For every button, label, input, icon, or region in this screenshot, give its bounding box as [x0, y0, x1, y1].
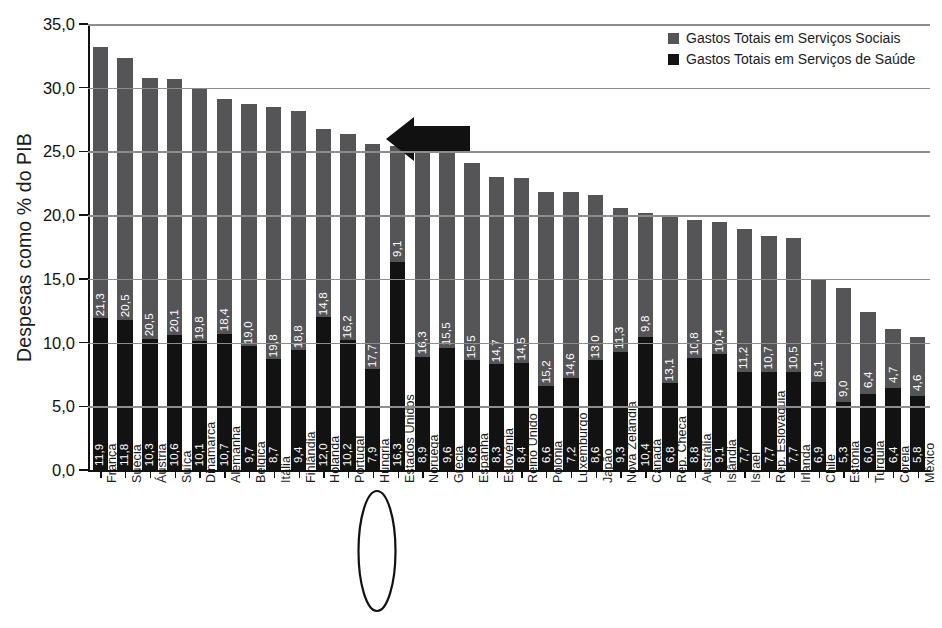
bar-column[interactable]: 18,89,4 — [291, 111, 306, 470]
bar-segment-social[interactable]: 9,8 — [638, 213, 653, 338]
bar-segment-social[interactable]: 11,2 — [737, 229, 752, 372]
bar-segment-social[interactable]: 13,1 — [662, 216, 677, 383]
x-tick-mark — [521, 471, 522, 478]
bar-segment-social[interactable]: 20,1 — [167, 79, 182, 335]
y-tick-mark — [79, 342, 88, 344]
bar-segment-social[interactable]: 16,2 — [340, 134, 355, 340]
bar-column[interactable]: 9,810,4 — [638, 213, 653, 470]
bar-column[interactable]: 20,110,6 — [167, 79, 182, 470]
bar-column[interactable]: 14,78,3 — [489, 177, 504, 470]
x-axis-label-turquia: Turquia — [873, 440, 887, 483]
bar-segment-social[interactable]: 6,4 — [860, 312, 875, 394]
bar-segment-social[interactable]: 15,2 — [538, 192, 553, 386]
bar-segment-social[interactable]: 10,8 — [687, 220, 702, 358]
x-tick-mark — [472, 471, 473, 478]
bar-segment-social[interactable]: 15,5 — [464, 163, 479, 361]
y-tick-label: 5,0 — [21, 397, 75, 416]
bar-value-label-social: 6,4 — [862, 372, 874, 389]
bar-segment-social[interactable]: 15,5 — [439, 150, 454, 348]
bar-column[interactable]: 11,27,7 — [737, 229, 752, 470]
x-axis-label-su-cia: Suécia — [130, 444, 144, 483]
x-axis-label-dinamarca: Dinamarca — [204, 422, 218, 483]
x-tick-mark — [150, 471, 151, 478]
y-tick-mark — [79, 23, 88, 25]
x-tick-mark — [744, 471, 745, 478]
bar-segment-social[interactable]: 14,6 — [563, 192, 578, 378]
x-tick-mark — [769, 471, 770, 478]
bar-value-label-social: 10,4 — [714, 329, 726, 352]
legend-item[interactable]: Gastos Totais em Serviços de Saúde — [668, 51, 915, 67]
x-tick-mark — [249, 471, 250, 478]
legend-item[interactable]: Gastos Totais em Serviços Sociais — [668, 30, 915, 46]
bar-segment-social[interactable]: 9,0 — [836, 288, 851, 403]
bar-segment-social[interactable]: 19,0 — [241, 104, 256, 346]
bar-column[interactable]: 15,59,6 — [439, 150, 454, 470]
y-tick-label: 25,0 — [21, 142, 75, 161]
x-axis-label-austr-lia: Austrália — [700, 433, 714, 483]
x-axis-label-jap-o: Japão — [601, 448, 615, 483]
x-axis-label-m-xico: México — [923, 443, 937, 483]
y-tick-mark — [79, 406, 88, 408]
x-axis-label-isl-ndia: Islândia — [725, 439, 739, 483]
bar-value-label-social: 17,7 — [367, 344, 379, 367]
y-tick-mark — [79, 87, 88, 89]
bar-column[interactable]: 15,26,6 — [538, 192, 553, 470]
bar-column[interactable]: 18,410,7 — [217, 99, 232, 470]
bar-column[interactable]: 15,58,6 — [464, 163, 479, 470]
bar-value-label-social: 10,8 — [689, 333, 701, 356]
bar-segment-social[interactable]: 17,7 — [365, 144, 380, 370]
bar-segment-social[interactable]: 9,1 — [390, 146, 405, 262]
y-gridline — [88, 406, 930, 408]
y-tick-label: 10,0 — [21, 333, 75, 352]
legend-label: Gastos Totais em Serviços de Saúde — [686, 51, 915, 67]
bar-segment-social[interactable]: 4,6 — [910, 337, 925, 396]
bar-column[interactable]: 17,77,9 — [365, 144, 380, 470]
bar-segment-health[interactable]: 8,7 — [266, 359, 281, 470]
x-tick-mark — [571, 471, 572, 478]
bar-column[interactable]: 13,08,6 — [588, 195, 603, 470]
x-axis-label-hungria: Hungria — [378, 439, 392, 483]
x-axis-label-holanda: Holanda — [328, 436, 342, 483]
bar-value-label-social: 13,1 — [664, 358, 676, 381]
bar-segment-social[interactable]: 8,1 — [811, 279, 826, 382]
bar-segment-social[interactable]: 18,8 — [291, 111, 306, 351]
y-tick-mark — [79, 469, 88, 471]
bar-column[interactable]: 10,49,1 — [712, 222, 727, 470]
bar-segment-social[interactable]: 14,5 — [514, 178, 529, 363]
bar-column[interactable]: 16,210,2 — [340, 134, 355, 470]
bar-value-label-social: 11,3 — [615, 327, 627, 349]
bar-segment-social[interactable]: 10,5 — [786, 238, 801, 372]
bar-segment-social[interactable]: 16,3 — [415, 149, 430, 357]
bar-column[interactable]: 10,57,7 — [786, 238, 801, 470]
bar-value-label-social: 20,5 — [119, 294, 131, 317]
legend-label: Gastos Totais em Serviços Sociais — [686, 30, 901, 46]
bar-column[interactable]: 19,88,7 — [266, 107, 281, 470]
bar-column[interactable]: 19,09,7 — [241, 104, 256, 470]
bar-value-label-health: 7,9 — [367, 446, 379, 463]
bar-value-label-social: 21,3 — [95, 293, 107, 316]
bar-column[interactable]: 14,812,0 — [316, 129, 331, 471]
x-tick-mark — [794, 471, 795, 478]
bar-column[interactable]: 20,511,8 — [117, 58, 132, 470]
x-tick-mark — [175, 471, 176, 478]
bar-segment-social[interactable]: 4,7 — [885, 329, 900, 389]
x-tick-mark — [596, 471, 597, 478]
bar-value-label-social: 18,4 — [218, 308, 230, 331]
bar-segment-social[interactable]: 13,0 — [588, 195, 603, 361]
x-axis-label-israel: Israel — [749, 452, 763, 483]
bar-segment-social[interactable]: 14,8 — [316, 129, 331, 318]
bar-value-label-social: 10,5 — [788, 347, 800, 370]
bar-segment-social[interactable]: 14,7 — [489, 177, 504, 364]
bar-column[interactable]: 8,16,9 — [811, 279, 826, 470]
bar-segment-social[interactable]: 19,8 — [266, 107, 281, 359]
x-tick-mark — [695, 471, 696, 478]
bar-segment-social[interactable]: 10,7 — [761, 236, 776, 372]
bar-value-label-health: 9,4 — [293, 446, 305, 463]
bar-column[interactable]: 20,510,3 — [142, 78, 157, 470]
bar-segment-social[interactable]: 20,5 — [117, 58, 132, 319]
chart-root: Despesas como % do PIB 0,05,010,015,020,… — [0, 0, 942, 628]
bar-value-label-health: 10,6 — [169, 443, 181, 466]
x-tick-mark — [299, 471, 300, 478]
bar-segment-social[interactable]: 20,5 — [142, 78, 157, 339]
bar-segment-social[interactable]: 10,4 — [712, 222, 727, 355]
